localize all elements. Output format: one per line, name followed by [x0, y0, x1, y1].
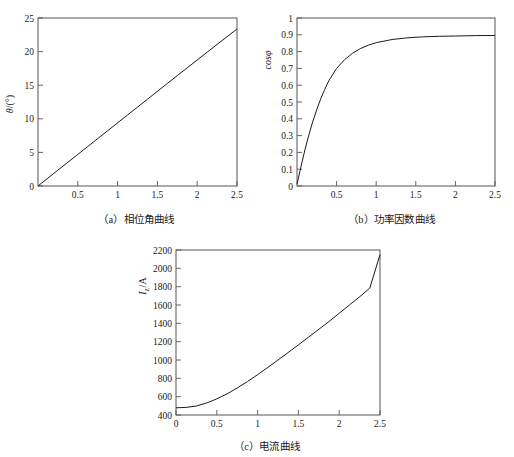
x-tick-label: 1.5 — [410, 190, 422, 200]
y-tick-label: 400 — [158, 411, 173, 421]
y-tick-label: 25 — [25, 14, 35, 24]
y-axis-unit: /A — [137, 277, 148, 288]
x-axis-symbol: P — [455, 203, 462, 205]
y-tick-label: 0.8 — [281, 47, 293, 57]
panel-a-phase-angle-curve: 0 5 10 15 20 25 0.5 1 1.5 2 2.5 — [0, 0, 257, 230]
y-tick-label: 5 — [29, 148, 34, 158]
x-tick-label: 1 — [255, 419, 260, 429]
x-axis-symbol: P — [340, 432, 347, 433]
chart-c-x-axis-title: Pe/MW — [340, 432, 372, 433]
y-axis-symbol: cos — [262, 56, 273, 69]
plot-area-a: 0 5 10 15 20 25 0.5 1 1.5 2 2.5 — [0, 0, 257, 230]
svg-text:cosφ: cosφ — [262, 50, 273, 69]
y-tick-label: 20 — [25, 47, 35, 57]
x-tick-label: 2.5 — [231, 190, 243, 200]
x-tick-label: 2 — [453, 190, 458, 200]
chart-c-y-ticklabels: 400 600 800 1000 1200 1400 1600 1800 200… — [153, 246, 172, 421]
y-tick-label: 0.3 — [281, 131, 293, 141]
x-tick-label: 0.5 — [331, 190, 343, 200]
panel-b-caption: （b）功率因数曲线 — [263, 211, 514, 226]
x-tick-label: 2.5 — [374, 419, 386, 429]
y-tick-label: 1200 — [153, 337, 172, 347]
x-tick-label: 1.5 — [151, 190, 163, 200]
y-tick-label: 1000 — [153, 356, 172, 366]
chart-a-x-axis-title: Pe/MW — [197, 203, 229, 205]
y-tick-label: 0.7 — [281, 64, 293, 74]
y-tick-label: 2000 — [153, 264, 172, 274]
x-tick-label: 2 — [337, 419, 342, 429]
plot-area-c: 400 600 800 1000 1200 1400 1600 1800 200… — [128, 228, 398, 457]
x-tick-label: 0.5 — [211, 419, 223, 429]
y-tick-label: 0 — [29, 182, 34, 192]
y-tick-label: 0.2 — [281, 148, 293, 158]
chart-c-y-axis-title: IL/A — [137, 277, 151, 296]
chart-b-x-ticklabels: 0.5 1 1.5 2 2.5 — [331, 190, 502, 200]
y-tick-label: 0.4 — [281, 114, 293, 124]
x-tick-label: 1.5 — [292, 419, 304, 429]
plot-area-b: 0 0.1 0.2 0.3 0.4 0.5 0.6 0.7 0.8 0.9 1 — [257, 0, 514, 230]
y-tick-label: 0.6 — [281, 81, 293, 91]
y-tick-label: 0 — [288, 182, 293, 192]
chart-a-svg: 0 5 10 15 20 25 0.5 1 1.5 2 2.5 — [0, 0, 257, 205]
y-tick-label: 0.9 — [281, 30, 293, 40]
x-tick-label: 1 — [374, 190, 379, 200]
chart-b-frame — [297, 18, 495, 186]
chart-a-y-axis-title: θ/(°) — [4, 95, 16, 113]
y-tick-label: 1600 — [153, 301, 172, 311]
panel-c-current-curve: 400 600 800 1000 1200 1400 1600 1800 200… — [128, 228, 398, 457]
chart-a-frame — [38, 18, 237, 186]
panel-a-caption: （a）相位角曲线 — [8, 211, 265, 226]
chart-b-y-ticklabels: 0 0.1 0.2 0.3 0.4 0.5 0.6 0.7 0.8 0.9 1 — [281, 14, 293, 192]
chart-c-frame — [176, 250, 380, 415]
svg-text:θ/(°): θ/(°) — [4, 95, 16, 113]
y-axis-unit: φ — [262, 50, 273, 56]
y-tick-label: 2200 — [153, 246, 172, 256]
chart-a-x-ticklabels: 0.5 1 1.5 2 2.5 — [72, 190, 243, 200]
chart-c-svg: 400 600 800 1000 1200 1400 1600 1800 200… — [128, 228, 398, 433]
y-tick-label: 800 — [158, 374, 173, 384]
x-tick-label: 1 — [115, 190, 120, 200]
y-tick-label: 0.1 — [281, 165, 293, 175]
x-axis-unit: /MW — [207, 203, 229, 205]
x-tick-label: 2 — [195, 190, 200, 200]
panel-c-caption: （c）电流曲线 — [132, 438, 402, 453]
x-axis-unit: /MW — [465, 203, 487, 205]
panel-b-power-factor-curve: 0 0.1 0.2 0.3 0.4 0.5 0.6 0.7 0.8 0.9 1 — [257, 0, 514, 230]
y-tick-label: 1 — [288, 14, 293, 24]
x-tick-label: 0 — [174, 419, 179, 429]
y-tick-label: 15 — [25, 81, 35, 91]
x-axis-unit: /MW — [350, 432, 372, 433]
y-tick-label: 1400 — [153, 319, 172, 329]
chart-b-x-axis-title: Pe/MW — [455, 203, 487, 205]
x-tick-label: 2.5 — [489, 190, 501, 200]
y-tick-label: 1800 — [153, 282, 172, 292]
chart-b-svg: 0 0.1 0.2 0.3 0.4 0.5 0.6 0.7 0.8 0.9 1 — [257, 0, 514, 205]
y-axis-unit: /(°) — [4, 95, 16, 108]
x-tick-label: 0.5 — [72, 190, 84, 200]
x-axis-symbol: P — [197, 203, 204, 205]
chart-a-y-ticklabels: 0 5 10 15 20 25 — [25, 14, 35, 192]
y-tick-label: 600 — [158, 392, 173, 402]
svg-text:IL/A: IL/A — [137, 277, 151, 296]
chart-c-x-ticklabels: 0 0.5 1 1.5 2 2.5 — [174, 419, 387, 429]
y-tick-label: 0.5 — [281, 98, 293, 108]
y-tick-label: 10 — [25, 114, 35, 124]
chart-b-y-axis-title: cosφ — [262, 50, 273, 69]
